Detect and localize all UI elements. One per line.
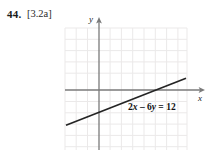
y-axis-label: y — [88, 14, 93, 24]
equation-annotation: 2x – 6y = 12 — [128, 102, 176, 112]
graph-svg: y x 2x – 6y = 12 — [0, 0, 211, 153]
equation-constant: 12 — [166, 102, 176, 112]
exercise-figure: 44. [3.2a] — [0, 0, 211, 153]
x-axis-label: x — [197, 93, 202, 103]
grid-lines — [65, 28, 187, 150]
coordinate-graph: y x 2x – 6y = 12 — [0, 0, 211, 153]
